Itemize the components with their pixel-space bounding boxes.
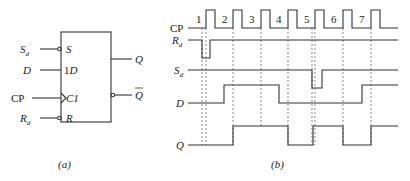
- cp-label: CP: [11, 92, 24, 104]
- pulse-number-4: 4: [276, 13, 282, 25]
- 1d-pin-label: 1D: [64, 64, 78, 76]
- d-label: D: [22, 64, 31, 76]
- timing-diagram: CP Rd Sd D Q 1 2 3 4 5 6 7 (b): [170, 10, 398, 171]
- q-output-label: Q: [135, 53, 143, 65]
- caption-b: (b): [271, 158, 284, 171]
- cp-signal-label: CP: [170, 22, 183, 34]
- caption-a: (a): [58, 158, 71, 171]
- dashed-guides: [202, 28, 371, 145]
- sd-inversion-bubble: [58, 47, 62, 51]
- sd-signal-label: Sd: [174, 64, 184, 79]
- pulse-number-6: 6: [331, 13, 337, 25]
- pulse-number-7: 7: [359, 13, 365, 25]
- sd-label: Sd: [20, 43, 30, 58]
- pulse-number-5: 5: [304, 13, 310, 25]
- q-signal-label: Q: [176, 139, 184, 151]
- d-flip-flop-symbol: Sd S D 1D CP C1 Rd R Q Q (a): [11, 32, 143, 171]
- pulse-number-3: 3: [249, 13, 255, 25]
- flip-flop-figure: Sd S D 1D CP C1 Rd R Q Q (a): [0, 0, 410, 181]
- c1-pin-label: C1: [66, 92, 79, 104]
- qbar-inversion-bubble: [111, 93, 115, 97]
- qbar-output-label: Q: [135, 89, 143, 101]
- r-pin-label: R: [65, 112, 73, 124]
- rd-inversion-bubble: [58, 116, 62, 120]
- d-signal-label: D: [175, 97, 184, 109]
- rd-signal-label: Rd: [171, 34, 183, 49]
- rd-waveform: [188, 40, 398, 58]
- s-pin-label: S: [66, 43, 72, 55]
- pulse-number-2: 2: [222, 13, 228, 25]
- pulse-number-1: 1: [196, 13, 202, 25]
- d-waveform: [188, 85, 398, 103]
- q-waveform: [188, 126, 398, 145]
- cp-waveform: [188, 10, 398, 28]
- rd-label: Rd: [19, 112, 31, 127]
